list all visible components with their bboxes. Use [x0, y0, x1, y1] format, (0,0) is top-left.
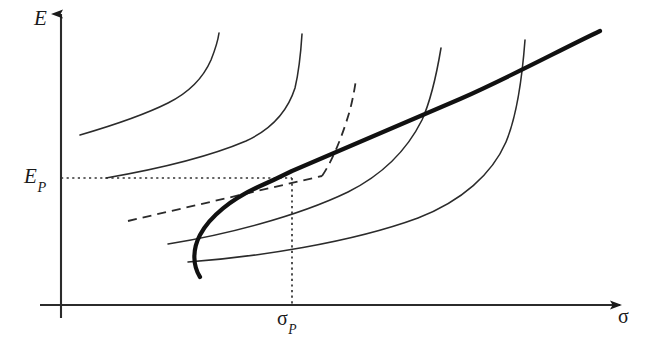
dashed-lines-group: [128, 79, 356, 221]
isochrone-curve-3: [168, 48, 441, 244]
guide-lines-group: [61, 178, 292, 305]
isochrone-curve-2: [106, 34, 302, 178]
axes-group: [40, 14, 620, 318]
figure-canvas: E EP σP σ: [0, 0, 654, 345]
sigmaP-base: σ: [277, 307, 288, 329]
x-axis-label: σ: [618, 306, 629, 326]
sigmaP-subscript: P: [288, 322, 296, 337]
proportional-limit-x-label: σP: [277, 308, 296, 333]
y-axis-label: E: [34, 8, 47, 29]
isochrone-curves-group: [80, 33, 525, 262]
proportional-limit-y-label: EP: [24, 166, 46, 190]
isochrone-curve-1: [80, 33, 219, 135]
plot-area: [0, 0, 654, 345]
branch-dashed-curve: [322, 79, 356, 176]
Ep-base: E: [24, 164, 37, 188]
Ep-subscript: P: [37, 179, 46, 195]
isochrone-curve-4: [188, 40, 525, 262]
envelope-curve: [194, 31, 600, 277]
